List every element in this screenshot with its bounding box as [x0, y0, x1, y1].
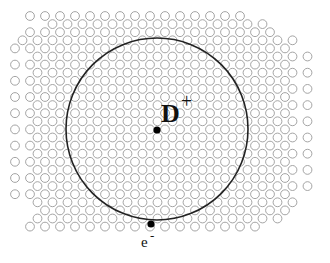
lattice-atom: [71, 206, 80, 215]
lattice-atom: [146, 125, 155, 134]
lattice-atom: [273, 36, 282, 45]
lattice-atom: [228, 101, 237, 110]
lattice-atom: [146, 174, 155, 183]
lattice-atom: [273, 52, 282, 61]
lattice-atom: [63, 214, 72, 223]
lattice-atom: [281, 157, 290, 166]
lattice-atom: [131, 190, 140, 199]
lattice-atom: [101, 141, 110, 150]
lattice-atom: [183, 117, 192, 126]
lattice-atom: [153, 133, 162, 142]
lattice-atom: [108, 149, 117, 158]
lattice-atom: [198, 101, 207, 110]
lattice-atom: [303, 166, 312, 175]
lattice-atom: [221, 141, 230, 150]
lattice-atom: [213, 52, 222, 61]
lattice-atom: [288, 182, 297, 191]
lattice-atom: [26, 93, 35, 102]
lattice-atom: [266, 206, 275, 215]
lattice-atom: [116, 190, 125, 199]
lattice-atom: [116, 93, 125, 102]
lattice-atom: [101, 93, 110, 102]
lattice-atom: [303, 85, 312, 94]
lattice-atom: [138, 198, 147, 207]
lattice-atom: [303, 68, 312, 77]
lattice-atom: [78, 198, 87, 207]
lattice-atom: [258, 149, 267, 158]
lattice-atom: [41, 125, 50, 134]
lattice-atom: [26, 174, 35, 183]
lattice-atom: [251, 44, 260, 53]
lattice-atom: [56, 109, 65, 118]
lattice-atom: [236, 28, 245, 37]
lattice-atom: [33, 117, 42, 126]
lattice-atom: [33, 149, 42, 158]
lattice-atom: [93, 36, 102, 45]
lattice-atom: [131, 12, 140, 21]
lattice-atom: [71, 28, 80, 37]
lattice-atom: [63, 52, 72, 61]
lattice-atom: [116, 109, 125, 118]
lattice-atom: [56, 93, 65, 102]
lattice-atom: [213, 149, 222, 158]
lattice-atom: [63, 20, 72, 29]
lattice-atom: [198, 133, 207, 142]
lattice-atom: [168, 133, 177, 142]
lattice-atom: [221, 206, 230, 215]
lattice-atom: [236, 206, 245, 215]
lattice-atom: [221, 222, 230, 231]
lattice-atom: [228, 214, 237, 223]
lattice-atom: [228, 198, 237, 207]
lattice-atom: [198, 166, 207, 175]
lattice-atom: [131, 174, 140, 183]
lattice-atom: [258, 85, 267, 94]
lattice-atom: [266, 157, 275, 166]
lattice-atom: [56, 222, 65, 231]
lattice-atom: [26, 222, 35, 231]
lattice-atom: [131, 60, 140, 69]
lattice-atom: [78, 52, 87, 61]
lattice-atom: [71, 12, 80, 21]
lattice-atom: [116, 76, 125, 85]
lattice-atom: [108, 36, 117, 45]
lattice-atom: [48, 52, 57, 61]
lattice-atom: [146, 109, 155, 118]
lattice-atom: [11, 44, 20, 53]
lattice-atom: [206, 141, 215, 150]
lattice-atom: [161, 190, 170, 199]
lattice-atom: [101, 60, 110, 69]
lattice-atom: [41, 190, 50, 199]
lattice-atom: [131, 157, 140, 166]
lattice-atom: [86, 174, 95, 183]
lattice-atom: [251, 174, 260, 183]
lattice-atom: [258, 101, 267, 110]
lattice-atom: [221, 125, 230, 134]
lattice-atom: [153, 182, 162, 191]
lattice-atom: [123, 52, 132, 61]
lattice-atom: [78, 214, 87, 223]
lattice-atom: [63, 68, 72, 77]
lattice-atom: [221, 76, 230, 85]
lattice-atom: [251, 125, 260, 134]
lattice-atom: [221, 28, 230, 37]
lattice-atom: [86, 93, 95, 102]
lattice-atom: [123, 117, 132, 126]
lattice-atom: [138, 101, 147, 110]
donor-label: D: [161, 99, 180, 128]
lattice-atom: [213, 133, 222, 142]
lattice-atom: [236, 44, 245, 53]
lattice-atom: [198, 68, 207, 77]
lattice-atom: [26, 109, 35, 118]
lattice-atom: [221, 93, 230, 102]
lattice-atom: [71, 60, 80, 69]
lattice-atom: [281, 60, 290, 69]
lattice-atom: [258, 166, 267, 175]
lattice-atom: [221, 190, 230, 199]
lattice-atom: [153, 198, 162, 207]
lattice-atom: [251, 28, 260, 37]
lattice-atom: [266, 93, 275, 102]
lattice-atom: [71, 141, 80, 150]
lattice-atom: [48, 166, 57, 175]
lattice-atom: [33, 52, 42, 61]
lattice-atom: [33, 36, 42, 45]
